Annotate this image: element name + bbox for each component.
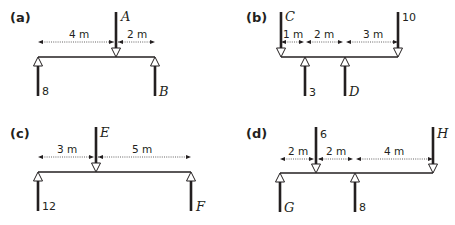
- force-label: E: [99, 125, 110, 140]
- panel-label: (c): [10, 126, 30, 141]
- dimension-label: 4 m: [69, 28, 89, 40]
- arrowhead-icon: [356, 157, 361, 161]
- arrowhead-icon: [38, 155, 43, 159]
- up-force-arrow: F: [187, 172, 207, 214]
- arrowhead-icon: [338, 40, 343, 44]
- force-label: G: [284, 200, 294, 215]
- force-label: 6: [320, 128, 327, 141]
- arrow-up-icon: [351, 173, 360, 182]
- force-label: C: [285, 9, 295, 24]
- dimension-label: 3 m: [363, 28, 383, 40]
- panel-b: (b) 1 m 2 m 3 m C 10: [246, 9, 416, 99]
- arrowhead-icon: [280, 157, 285, 161]
- arrowhead-icon: [306, 40, 311, 44]
- dimension-label: 5 m: [132, 143, 152, 155]
- dimension-label: 2 m: [288, 145, 308, 157]
- force-label: B: [158, 84, 169, 99]
- dimension-label: 3 m: [57, 143, 77, 155]
- beam-diagrams: (a) 4 m 2 m A 8 B: [0, 0, 455, 225]
- dimension-line: 2 m 2 m 4 m: [280, 145, 433, 161]
- arrowhead-icon: [318, 157, 323, 161]
- arrow-down-icon: [394, 48, 403, 57]
- arrow-down-icon: [92, 163, 101, 172]
- force-label: F: [195, 199, 206, 214]
- arrowhead-icon: [109, 40, 114, 44]
- panel-d: (d) 2 m 2 m 4 m 6 H: [246, 126, 449, 215]
- arrow-down-icon: [277, 48, 286, 57]
- up-force-arrow: B: [151, 57, 169, 99]
- arrowhead-icon: [89, 155, 94, 159]
- down-force-arrow: 6: [312, 127, 328, 173]
- arrowhead-icon: [150, 40, 155, 44]
- force-label: H: [436, 126, 449, 141]
- arrowhead-icon: [38, 40, 43, 44]
- arrowhead-icon: [186, 155, 191, 159]
- dimension-label: 2 m: [326, 145, 346, 157]
- force-label: 10: [402, 11, 416, 24]
- arrow-down-icon: [429, 164, 438, 173]
- arrow-up-icon: [34, 57, 43, 66]
- down-force-arrow: 10: [394, 11, 417, 57]
- arrowhead-icon: [98, 155, 103, 159]
- up-force-arrow: 3: [301, 57, 317, 99]
- force-label: D: [348, 84, 360, 99]
- dimension-line: 4 m 2 m: [38, 28, 155, 44]
- force-label: 3: [309, 86, 316, 99]
- panel-label: (b): [246, 10, 267, 25]
- dimension-label: 1 m: [283, 28, 303, 40]
- panel-label: (d): [246, 126, 267, 141]
- arrow-down-icon: [112, 48, 121, 57]
- arrow-up-icon: [187, 172, 196, 181]
- arrowhead-icon: [299, 40, 304, 44]
- dimension-line: 1 m 2 m 3 m: [281, 28, 398, 44]
- arrowhead-icon: [348, 157, 353, 161]
- dimension-label: 2 m: [314, 28, 334, 40]
- force-label: 8: [359, 201, 366, 214]
- dimension-line: 3 m 5 m: [38, 143, 191, 159]
- down-force-arrow: H: [429, 126, 450, 173]
- up-force-arrow: 12: [34, 172, 57, 213]
- dimension-label: 4 m: [384, 145, 404, 157]
- arrowhead-icon: [309, 157, 314, 161]
- force-label: 12: [42, 200, 56, 213]
- panel-c: (c) 3 m 5 m E 12 F: [10, 125, 206, 214]
- force-label: A: [120, 9, 130, 24]
- arrow-down-icon: [312, 164, 321, 173]
- up-force-arrow: D: [341, 57, 361, 99]
- up-force-arrow: G: [276, 173, 295, 215]
- up-force-arrow: 8: [351, 173, 367, 214]
- arrow-up-icon: [276, 173, 285, 182]
- arrow-up-icon: [341, 57, 350, 66]
- down-force-arrow: E: [92, 125, 111, 172]
- arrow-up-icon: [301, 57, 310, 66]
- arrow-up-icon: [151, 57, 160, 66]
- up-force-arrow: 8: [34, 57, 50, 98]
- arrowhead-icon: [346, 40, 351, 44]
- arrow-up-icon: [34, 172, 43, 181]
- dimension-label: 2 m: [127, 28, 147, 40]
- force-label: 8: [42, 85, 49, 98]
- panel-label: (a): [10, 10, 31, 25]
- arrowhead-icon: [118, 40, 123, 44]
- panel-a: (a) 4 m 2 m A 8 B: [10, 9, 169, 99]
